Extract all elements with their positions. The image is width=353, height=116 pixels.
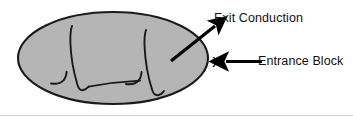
exit-conduction-label: Exit Conduction [214, 12, 303, 25]
entrance-block-label: Entrance Block [258, 55, 343, 68]
myocardial-focus-ellipse [18, 12, 208, 104]
block-site-marker: X [212, 54, 222, 69]
figure-container: X Exit Conduction Entrance Block [0, 0, 353, 116]
